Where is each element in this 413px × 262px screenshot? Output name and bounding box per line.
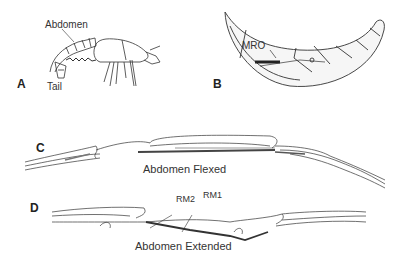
panel-label-a: A	[17, 78, 26, 90]
rm1-label: RM1	[203, 191, 222, 200]
rm2-label: RM2	[176, 195, 195, 204]
flexed-section-illustration	[25, 135, 385, 188]
panel-label-b: B	[213, 78, 222, 90]
abdomen-extended-caption: Abdomen Extended	[135, 241, 232, 252]
abdomen-label: Abdomen	[45, 20, 88, 30]
panel-label-d: D	[30, 202, 39, 214]
extended-section-illustration	[52, 207, 366, 240]
tail-label: Tail	[47, 82, 62, 92]
abdomen-flexed-caption: Abdomen Flexed	[143, 164, 226, 175]
mro-label: MRO	[242, 41, 265, 51]
crayfish-illustration	[50, 29, 160, 86]
figure-drawing	[0, 0, 413, 262]
panel-label-c: C	[36, 142, 45, 154]
